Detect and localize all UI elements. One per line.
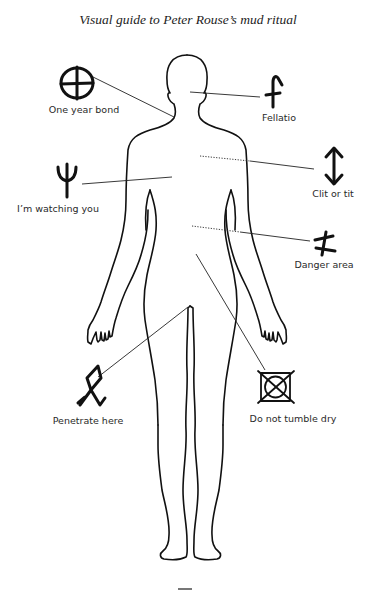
leader-fellatio (190, 92, 260, 97)
page-mark (178, 588, 192, 590)
label-danger-area: Danger area (294, 259, 353, 270)
label-one-year-bond: One year bond (49, 104, 119, 115)
leader-penetrate-here (98, 307, 188, 377)
leader-clit-or-tit-dotted (200, 156, 250, 161)
body-figure (0, 0, 376, 598)
trident-icon (58, 164, 76, 197)
label-fellatio: Fellatio (262, 112, 296, 123)
label-clit-or-tit: Clit or tit (312, 188, 353, 199)
leader-danger-area (240, 232, 310, 241)
double-arrow-icon (326, 148, 342, 184)
crossed-stem-icon (315, 232, 335, 255)
no-tumble-dry-icon (258, 371, 294, 403)
label-penetrate-here: Penetrate here (53, 415, 124, 426)
f-rune-icon (266, 77, 282, 107)
label-im-watching-you: I’m watching you (17, 203, 99, 214)
leader-danger-area-dotted (192, 226, 240, 232)
leader-clit-or-tit (250, 161, 314, 169)
othala-rune-icon (78, 366, 105, 405)
label-do-not-tumble-dry: Do not tumble dry (250, 413, 337, 424)
circle-cross-icon (61, 67, 93, 99)
